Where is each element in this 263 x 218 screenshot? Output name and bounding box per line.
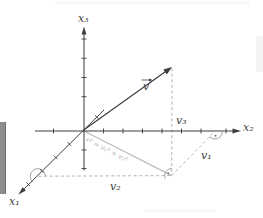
right-angle-dot-x1 [41, 170, 43, 172]
x2-axis-arrowhead [233, 129, 242, 134]
vector-components-diagram [0, 0, 263, 218]
x3-axis-label: x₃ [78, 13, 89, 25]
projection-line [83, 131, 172, 176]
x3-axis-arrowhead [82, 27, 87, 35]
x2-axis-label: x₂ [243, 122, 254, 134]
v2-dashed-line [39, 176, 172, 177]
right-angle-dot-corner [167, 172, 169, 174]
v2-component-label: v₂ [110, 181, 121, 193]
figure-canvas: x₃ x₂ x₁ v v₃ v₁ v₂ r² = v₁² + v₂² [0, 0, 263, 218]
v3-component-label: v₃ [176, 115, 187, 127]
right-angle-dot-x2 [215, 135, 217, 137]
vector-v-arrowhead [163, 67, 172, 74]
vector-v-label: v [143, 81, 149, 93]
v1-component-label: v₁ [201, 150, 212, 162]
x1-axis-line [21, 110, 104, 192]
vector-v-line [83, 71, 167, 131]
x1-axis-label: x₁ [9, 196, 20, 208]
